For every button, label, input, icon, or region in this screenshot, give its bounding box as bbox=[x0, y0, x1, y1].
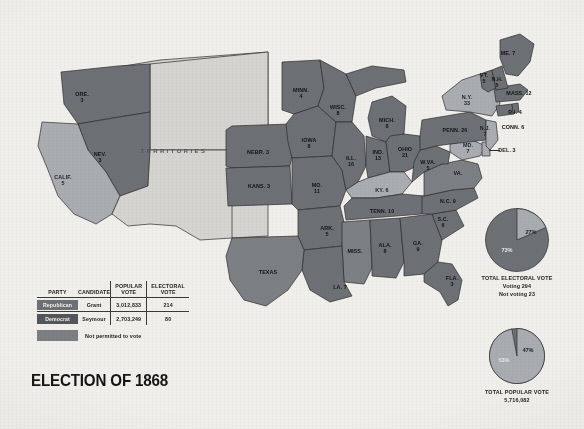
state-tennessee bbox=[344, 194, 424, 220]
pie-popular-chart bbox=[452, 328, 582, 386]
state-rhode-island bbox=[512, 103, 519, 113]
cell-electoral-seymour: 80 bbox=[147, 312, 189, 326]
state-connecticut bbox=[496, 104, 514, 116]
pie-electoral-caption-notvoting: Not voting 23 bbox=[452, 291, 582, 299]
header-party: PARTY bbox=[37, 281, 78, 298]
cell-party-democrat: Democrat bbox=[37, 312, 78, 326]
swatch-democrat: Democrat bbox=[37, 314, 78, 324]
state-michigan-up bbox=[346, 66, 406, 96]
results-table: PARTY CANDIDATE POPULAR VOTE ELECTORAL V… bbox=[37, 281, 189, 325]
state-alabama bbox=[370, 218, 404, 278]
pie-electoral-caption-voting: Voting 294 bbox=[452, 283, 582, 291]
table-row-democrat: Democrat Seymour 2,703,249 80 bbox=[37, 312, 189, 326]
table-row-republican: Republican Grant 3,012,833 214 bbox=[37, 298, 189, 312]
page-title: ELECTION OF 1868 bbox=[31, 371, 168, 390]
state-arkansas bbox=[298, 206, 344, 250]
swatch-not-permitted bbox=[37, 330, 78, 341]
pie-electoral-caption-title: TOTAL ELECTORAL VOTE bbox=[452, 275, 582, 283]
pie-electoral-chart bbox=[452, 208, 582, 272]
header-candidate: CANDIDATE bbox=[78, 281, 111, 298]
state-kansas bbox=[226, 166, 292, 206]
state-new-jersey bbox=[486, 120, 498, 150]
state-maine bbox=[500, 34, 534, 76]
label-republican: Republican bbox=[43, 302, 72, 308]
header-electoral-vote: ELECTORAL VOTE bbox=[147, 281, 189, 298]
state-texas bbox=[226, 236, 304, 306]
label-not-permitted: Not permitted to vote bbox=[85, 333, 141, 339]
cell-party-republican: Republican bbox=[37, 298, 78, 312]
pie-popular-caption-title: TOTAL POPULAR VOTE bbox=[452, 389, 582, 397]
table-header: PARTY CANDIDATE POPULAR VOTE ELECTORAL V… bbox=[37, 281, 189, 298]
cell-electoral-grant: 214 bbox=[147, 298, 189, 312]
pie-popular-block: 47% 53% TOTAL POPULAR VOTE 5,716,082 bbox=[452, 328, 582, 405]
label-democrat: Democrat bbox=[45, 316, 70, 322]
pie-popular-caption-total: 5,716,082 bbox=[452, 397, 582, 405]
pie-electoral-block: 27% 73% TOTAL ELECTORAL VOTE Voting 294 … bbox=[452, 208, 582, 298]
cell-popular-seymour: 2,703,249 bbox=[111, 312, 147, 326]
map-page: ORE. 3NEV. 3CALIF. 5NEBR. 3KANS. 3MINN. … bbox=[0, 0, 584, 429]
swatch-republican: Republican bbox=[37, 300, 78, 310]
territories-label: TERRITORIES bbox=[141, 148, 208, 154]
header-popular-vote: POPULAR VOTE bbox=[111, 281, 147, 298]
cell-popular-grant: 3,012,833 bbox=[111, 298, 147, 312]
cell-candidate-grant: Grant bbox=[78, 298, 111, 312]
state-nebraska bbox=[226, 124, 294, 168]
delaware-leader-line bbox=[489, 150, 500, 151]
legend-table: PARTY CANDIDATE POPULAR VOTE ELECTORAL V… bbox=[37, 281, 189, 325]
pie-popular-minor-slice bbox=[490, 329, 545, 384]
state-mississippi bbox=[342, 220, 372, 284]
legend-not-permitted: Not permitted to vote bbox=[37, 330, 141, 341]
cell-candidate-seymour: Seymour bbox=[78, 312, 111, 326]
table-body: Republican Grant 3,012,833 214 Democrat … bbox=[37, 298, 189, 326]
